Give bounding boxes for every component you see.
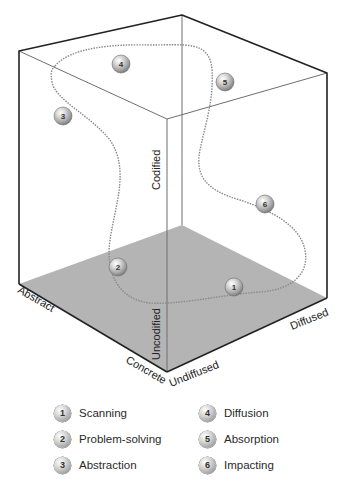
svg-text:1: 1 <box>232 283 237 292</box>
ball-1: 1 <box>225 278 243 296</box>
legend-label: Problem-solving <box>79 433 161 445</box>
numbered-ball-icon: 1 <box>54 405 71 422</box>
legend-item-diffusion: 4 Diffusion <box>199 400 279 426</box>
legend-column-left: 1 Scanning 2 Problem-solving 3 Abstracti… <box>54 400 161 478</box>
cube-floor <box>19 225 327 372</box>
legend-label: Diffusion <box>224 407 269 419</box>
ball-4: 4 <box>112 55 130 73</box>
numbered-ball-icon: 3 <box>54 457 71 474</box>
svg-text:4: 4 <box>119 60 124 69</box>
numbered-ball-icon: 4 <box>199 405 216 422</box>
legend-column-right: 4 Diffusion 5 Absorption 6 Impacting <box>199 400 279 478</box>
legend-item-abstraction: 3 Abstraction <box>54 452 161 478</box>
ball-6: 6 <box>256 195 274 213</box>
legend-item-impacting: 6 Impacting <box>199 452 279 478</box>
legend-label: Scanning <box>79 407 127 419</box>
svg-text:6: 6 <box>263 200 268 209</box>
legend-item-absorption: 5 Absorption <box>199 426 279 452</box>
legend-label: Abstraction <box>79 459 137 471</box>
numbered-ball-icon: 2 <box>54 431 71 448</box>
numbered-ball-icon: 5 <box>199 431 216 448</box>
svg-text:5: 5 <box>223 78 228 87</box>
legend-item-scanning: 1 Scanning <box>54 400 161 426</box>
legend-label: Absorption <box>224 433 279 445</box>
ball-3: 3 <box>54 107 72 125</box>
legend-label: Impacting <box>224 459 274 471</box>
axis-label-codified: Codified <box>150 150 162 190</box>
numbered-ball-icon: 6 <box>199 457 216 474</box>
legend: 1 Scanning 2 Problem-solving 3 Abstracti… <box>54 400 334 490</box>
ball-5: 5 <box>216 73 234 91</box>
ball-2: 2 <box>109 258 127 276</box>
svg-text:3: 3 <box>61 112 66 121</box>
axis-label-uncodified: Uncodified <box>150 308 162 360</box>
legend-item-problem-solving: 2 Problem-solving <box>54 426 161 452</box>
svg-text:2: 2 <box>116 263 121 272</box>
